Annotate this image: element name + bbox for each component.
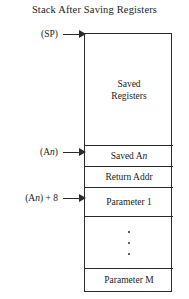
ellipsis-dot	[128, 253, 130, 255]
ellipsis-dot	[128, 231, 130, 233]
stack-cell-saved-an: Saved An	[85, 145, 173, 166]
saved-an-label-prefix: Saved A	[111, 150, 143, 162]
parameter-m-label: Parameter M	[104, 274, 153, 286]
pointer-an-plus-8: (An) + 8	[2, 191, 86, 205]
pointer-an-label: (An)	[40, 147, 58, 157]
saved-registers-line-2: Registers	[111, 90, 146, 102]
saved-an-label-register: n	[143, 150, 148, 162]
pointer-an8-prefix: (A	[25, 193, 35, 203]
pointer-an: (An)	[8, 145, 86, 159]
arrow-right-icon	[63, 194, 86, 203]
vertical-ellipsis-icon	[128, 217, 130, 268]
stack-cell-ellipsis	[85, 216, 173, 268]
return-addr-label: Return Addr	[105, 171, 152, 183]
stack-cell-parameter-m: Parameter M	[85, 268, 173, 291]
ellipsis-dot	[128, 242, 130, 244]
stack-cell-return-addr: Return Addr	[85, 166, 173, 187]
pointer-sp-label: (SP)	[41, 29, 58, 39]
pointer-sp: (SP)	[8, 27, 86, 41]
pointer-an-suffix: )	[55, 147, 58, 157]
pointer-an-prefix: (A	[40, 147, 50, 157]
stack-frame-diagram: Stack After Saving Registers Saved Regis…	[0, 0, 189, 299]
arrow-right-icon	[63, 30, 86, 39]
figure-title: Stack After Saving Registers	[0, 4, 189, 15]
pointer-an8-suffix: ) + 8	[40, 193, 58, 203]
stack-box: Saved Registers Saved An Return Addr Par…	[84, 33, 172, 292]
saved-registers-line-1: Saved	[117, 78, 140, 90]
arrow-right-icon	[63, 148, 86, 157]
stack-cell-saved-registers: Saved Registers	[85, 34, 173, 145]
stack-cell-parameter-1: Parameter 1	[85, 187, 173, 216]
parameter-1-label: Parameter 1	[106, 196, 152, 208]
pointer-an-plus-8-label: (An) + 8	[25, 193, 58, 203]
